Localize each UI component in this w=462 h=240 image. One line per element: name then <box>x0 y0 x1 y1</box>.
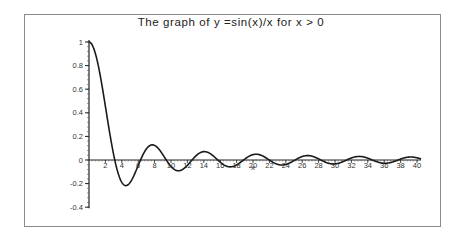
y-axis: -0.4-0.200.20.40.60.81 <box>70 38 89 212</box>
x-tick-label: 40 <box>413 161 421 170</box>
x-tick-label: 34 <box>364 161 372 170</box>
x-tick-label: 28 <box>314 161 322 170</box>
y-tick-label: 0 <box>79 156 83 165</box>
y-tick-label: -0.4 <box>70 203 83 212</box>
x-tick-label: 2 <box>103 161 107 170</box>
x-tick-label: 38 <box>396 161 404 170</box>
x-tick-label: 4 <box>120 161 124 170</box>
x-tick-label: 26 <box>298 161 306 170</box>
y-tick-label: 0.4 <box>73 108 83 117</box>
x-tick-label: 32 <box>347 161 355 170</box>
y-tick-label: 0.6 <box>73 85 83 94</box>
y-tick-label: 0.8 <box>73 61 83 70</box>
plot-area: -0.4-0.200.20.40.60.81 24681012141618202… <box>0 0 462 240</box>
y-tick-label: 0.2 <box>73 132 83 141</box>
y-tick-label: 1 <box>79 38 83 47</box>
y-tick-label: -0.2 <box>70 179 83 188</box>
x-tick-label: 8 <box>153 161 157 170</box>
x-tick-label: 14 <box>200 161 208 170</box>
x-axis-label: x <box>251 163 255 172</box>
x-tick-label: 30 <box>331 161 339 170</box>
